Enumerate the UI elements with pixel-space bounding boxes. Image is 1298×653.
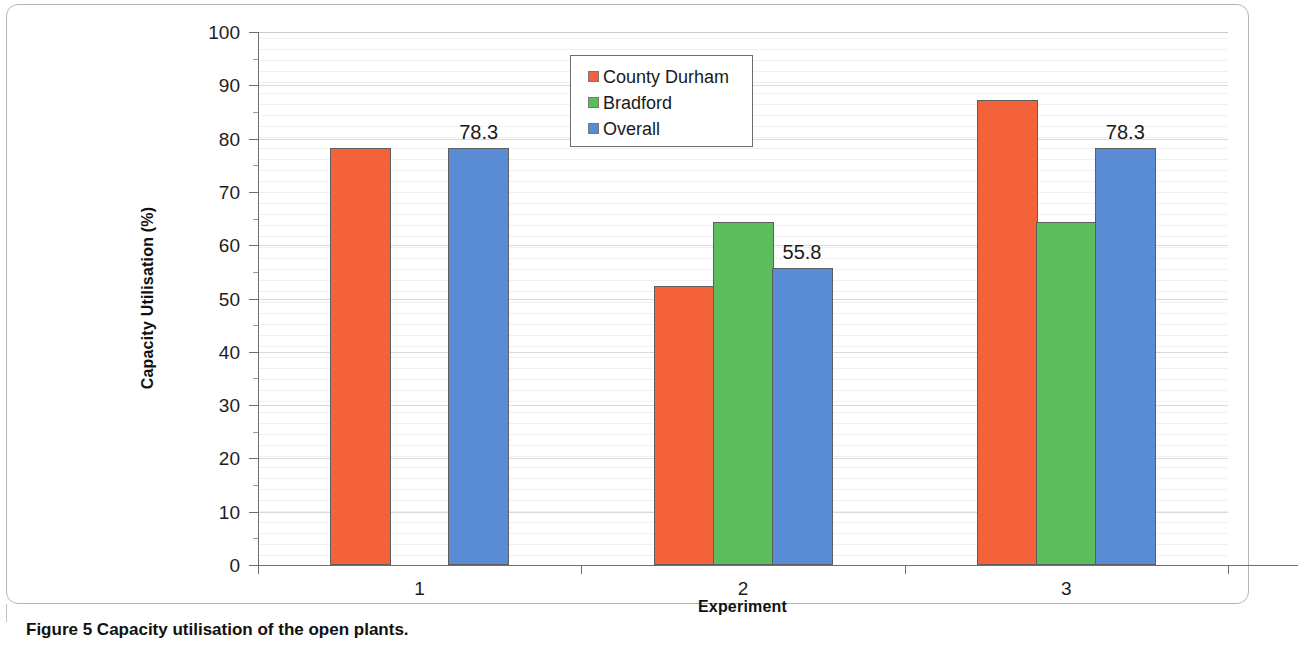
- y-tick-mark: [249, 32, 258, 33]
- y-tick-label: 80: [219, 129, 240, 148]
- x-tick-label: 3: [1061, 578, 1072, 600]
- legend-swatch-icon: [588, 123, 599, 134]
- x-tick-mark: [258, 565, 259, 574]
- y-tick-mark: [249, 85, 258, 86]
- y-tick-minor: [253, 219, 258, 220]
- paper-texture-line: [258, 214, 1228, 215]
- y-tick-label: 20: [219, 449, 240, 468]
- legend-item: Bradford: [588, 90, 752, 115]
- y-tick-mark: [249, 512, 258, 513]
- bar: [448, 148, 509, 565]
- legend-swatch-icon: [588, 97, 599, 108]
- bar: [713, 222, 774, 565]
- y-tick-minor: [253, 165, 258, 166]
- bar-value-label: 55.8: [783, 241, 822, 264]
- y-tick-label: 0: [229, 556, 240, 575]
- y-tick-minor: [253, 538, 258, 539]
- y-tick-minor: [253, 432, 258, 433]
- bar-chart: 78.355.878.3 0102030405060708090100 123 …: [0, 0, 1255, 610]
- gridline: [258, 32, 1228, 33]
- y-tick-minor: [253, 378, 258, 379]
- legend-label: County Durham: [603, 68, 729, 86]
- bar-value-label: 78.3: [459, 121, 498, 144]
- y-axis-line: [258, 32, 259, 566]
- bar: [1095, 148, 1156, 565]
- figure-caption: Figure 5 Capacity utilisation of the ope…: [26, 620, 409, 640]
- y-axis-title: Capacity Utilisation (%): [139, 207, 157, 390]
- legend-label: Overall: [603, 120, 660, 138]
- x-tick-mark: [905, 565, 906, 574]
- x-tick-mark: [1228, 565, 1229, 574]
- y-tick-label: 60: [219, 236, 240, 255]
- y-tick-minor: [253, 272, 258, 273]
- paper-texture-line: [258, 170, 1228, 171]
- y-tick-label: 70: [219, 182, 240, 201]
- y-tick-label: 100: [208, 23, 240, 42]
- paper-texture-line: [258, 192, 1228, 193]
- paper-texture-line: [258, 148, 1228, 149]
- paper-texture-line: [258, 159, 1228, 160]
- y-tick-label: 30: [219, 396, 240, 415]
- figure-caption-text: Capacity utilisation of the open plants.: [97, 620, 409, 639]
- y-tick-mark: [249, 139, 258, 140]
- y-tick-mark: [249, 405, 258, 406]
- y-tick-mark: [249, 565, 258, 566]
- x-tick-label: 2: [738, 578, 749, 600]
- y-tick-minor: [253, 325, 258, 326]
- y-tick-label: 10: [219, 502, 240, 521]
- x-axis-line: [258, 565, 1298, 566]
- y-tick-mark: [249, 245, 258, 246]
- y-tick-minor: [253, 112, 258, 113]
- legend-swatch-icon: [588, 71, 599, 82]
- y-tick-label: 40: [219, 342, 240, 361]
- x-axis-title-text: Experiment: [698, 598, 787, 615]
- y-tick-minor: [253, 485, 258, 486]
- x-axis-title: Experiment: [0, 598, 1255, 616]
- figure-caption-label: Figure 5: [26, 620, 92, 639]
- x-tick-mark: [581, 565, 582, 574]
- legend-item: County Durham: [588, 64, 752, 89]
- bar: [772, 268, 833, 565]
- y-tick-mark: [249, 352, 258, 353]
- paper-texture-line: [258, 38, 1228, 39]
- paper-texture-line: [258, 203, 1228, 204]
- legend-label: Bradford: [603, 94, 672, 112]
- x-tick-label: 1: [414, 578, 425, 600]
- bar: [330, 148, 391, 565]
- y-tick-label: 90: [219, 76, 240, 95]
- bar: [654, 286, 715, 565]
- y-tick-label: 50: [219, 289, 240, 308]
- y-tick-mark: [249, 192, 258, 193]
- y-tick-minor: [253, 59, 258, 60]
- y-tick-mark: [249, 299, 258, 300]
- bar: [977, 100, 1038, 565]
- legend-item: Overall: [588, 116, 752, 141]
- paper-texture-line: [258, 49, 1228, 50]
- bar-value-label: 78.3: [1106, 121, 1145, 144]
- chart-legend: County DurhamBradfordOverall: [570, 55, 753, 147]
- bar: [1036, 222, 1097, 565]
- y-tick-mark: [249, 458, 258, 459]
- paper-texture-line: [258, 181, 1228, 182]
